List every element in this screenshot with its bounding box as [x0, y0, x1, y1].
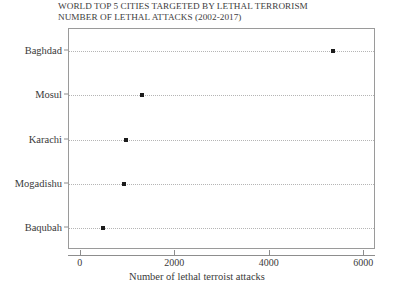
y-tick-mark — [64, 182, 68, 183]
y-tick-mark — [64, 50, 68, 51]
y-tick-mark — [64, 226, 68, 227]
x-tick-label-4000: 4000 — [259, 257, 279, 268]
chart-title-line-1: WORLD TOP 5 CITIES TARGETED BY LETHAL TE… — [58, 1, 388, 12]
x-axis-line — [68, 255, 375, 256]
y-tick-label-baqubah: Baqubah — [25, 221, 62, 232]
y-tick-label-mosul: Mosul — [35, 89, 62, 100]
data-point — [331, 49, 335, 53]
y-tick-mark — [64, 138, 68, 139]
x-tick-mark — [363, 250, 364, 255]
chart-figure: WORLD TOP 5 CITIES TARGETED BY LETHAL TE… — [0, 0, 394, 292]
plot-area — [69, 29, 374, 248]
x-tick-label-0: 0 — [77, 257, 82, 268]
gridline-row — [69, 140, 374, 142]
y-tick-label-baghdad: Baghdad — [25, 45, 62, 56]
gridline-row — [69, 184, 374, 186]
x-tick-mark — [174, 250, 175, 255]
data-point — [122, 182, 126, 186]
x-tick-mark — [269, 250, 270, 255]
chart-title-line-2: NUMBER OF LETHAL ATTACKS (2002-2017) — [58, 12, 388, 23]
data-point — [140, 93, 144, 97]
x-axis-title: Number of lethal terroist attacks — [0, 271, 394, 282]
gridline-row — [69, 95, 374, 97]
y-tick-label-mogadishu: Mogadishu — [15, 177, 62, 188]
data-point — [124, 138, 128, 142]
x-tick-mark — [80, 250, 81, 255]
plot-frame — [68, 28, 375, 249]
x-tick-label-2000: 2000 — [164, 257, 184, 268]
gridline-row — [69, 51, 374, 53]
y-tick-label-karachi: Karachi — [29, 133, 62, 144]
chart-title-block: WORLD TOP 5 CITIES TARGETED BY LETHAL TE… — [58, 1, 388, 23]
y-tick-mark — [64, 94, 68, 95]
gridline-row — [69, 228, 374, 230]
x-tick-label-6000: 6000 — [353, 257, 373, 268]
data-point — [101, 226, 105, 230]
